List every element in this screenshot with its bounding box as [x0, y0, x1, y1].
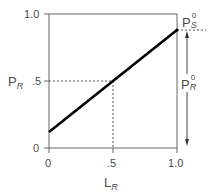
- ps0-main: P: [182, 15, 191, 30]
- endpoint-dot: [175, 28, 178, 31]
- ps0-label: P0S: [182, 16, 199, 29]
- data-line: [49, 30, 177, 132]
- y-tick-label-0: 0: [33, 143, 39, 154]
- x-tick-label-1: 1.0: [168, 158, 183, 169]
- pr0-main: P: [181, 77, 190, 92]
- ps0-sup: 0: [192, 12, 196, 20]
- x-axis-label: LR: [104, 176, 118, 189]
- x-tick-label-05: .5: [107, 158, 116, 169]
- pr0-label: P0R: [181, 78, 198, 91]
- y-axis-label-main: P: [8, 74, 17, 89]
- arrow-up-icon: [185, 31, 189, 38]
- y-tick-label-05: .5: [32, 76, 41, 87]
- y-axis-label: PR: [8, 75, 23, 88]
- x-tick-label-0: 0: [45, 158, 51, 169]
- x-axis-label-sub: R: [111, 182, 118, 192]
- pr0-sup: 0: [191, 74, 195, 82]
- y-tick-label-1: 1.0: [24, 9, 39, 20]
- pr0-sub: R: [190, 83, 197, 92]
- arrow-down-icon: [185, 139, 189, 146]
- ps0-sub: S: [191, 21, 197, 30]
- y-axis-label-sub: R: [17, 81, 24, 91]
